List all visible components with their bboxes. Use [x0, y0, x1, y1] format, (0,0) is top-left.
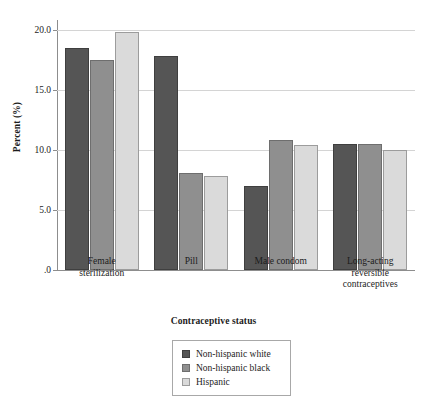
y-axis-title: Percent (%) [12, 77, 22, 177]
bar-group [244, 20, 318, 270]
bar-group [65, 20, 139, 270]
legend-item: Non-hispanic black [182, 361, 282, 374]
bar [90, 60, 114, 270]
bar-group [333, 20, 407, 270]
y-tick-label: .0 [44, 265, 51, 275]
bar [333, 144, 357, 270]
x-category-label: Femalesterilization [54, 256, 150, 279]
y-tick-label: 10.0 [34, 145, 51, 155]
bar-group [154, 20, 228, 270]
x-category-label-line: Male condom [233, 256, 329, 268]
x-category-label-line: contraceptives [322, 279, 418, 291]
x-category-label-line: sterilization [54, 268, 150, 280]
figure: Percent (%) .05.010.015.020.0 Femalester… [0, 0, 427, 408]
y-tick-label: 15.0 [34, 85, 51, 95]
figure-caption [6, 398, 421, 408]
bar [358, 144, 382, 270]
x-category-label: Male condom [233, 256, 329, 268]
x-axis-title: Contraceptive status [0, 316, 427, 326]
x-category-label: Long-actingreversiblecontraceptives [322, 256, 418, 291]
bar [65, 48, 89, 270]
plot-area: .05.010.015.020.0 [57, 20, 415, 270]
legend-swatch-icon [182, 378, 190, 386]
x-category-label-line: Female [54, 256, 150, 268]
bar [383, 150, 407, 270]
bar [269, 140, 293, 270]
legend-item-label: Hispanic [196, 377, 230, 387]
x-category-label-line: reversible [322, 268, 418, 280]
y-tick-label: 5.0 [39, 205, 51, 215]
legend-item: Non-hispanic white [182, 347, 282, 360]
y-tick-label: 20.0 [34, 25, 51, 35]
legend-item-label: Non-hispanic black [196, 363, 270, 373]
legend-swatch-icon [182, 350, 190, 358]
x-category-label: Pill [143, 256, 239, 268]
legend-swatch-icon [182, 364, 190, 372]
x-category-label-line: Long-acting [322, 256, 418, 268]
bar [154, 56, 178, 270]
legend-item: Hispanic [182, 375, 282, 388]
legend: Non-hispanic whiteNon-hispanic blackHisp… [172, 340, 291, 396]
bar-groups [57, 20, 415, 270]
legend-item-label: Non-hispanic white [196, 349, 271, 359]
x-category-label-line: Pill [143, 256, 239, 268]
bar [294, 145, 318, 270]
bar [115, 32, 139, 270]
